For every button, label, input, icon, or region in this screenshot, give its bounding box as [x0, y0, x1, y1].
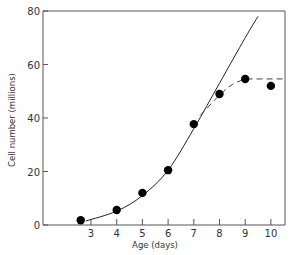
y-axis-title: Cell number (millions): [7, 73, 17, 167]
x-axis-title: Age (days): [132, 240, 178, 250]
y-tick-label: 60: [27, 60, 40, 71]
data-point: [113, 206, 121, 214]
x-tick-label: 9: [242, 228, 248, 239]
x-ticks: 345678910: [88, 219, 277, 239]
x-tick-label: 4: [114, 228, 120, 239]
plot-frame: [43, 11, 285, 225]
data-point: [215, 90, 223, 98]
y-tick-label: 20: [27, 167, 40, 178]
y-ticks: 020406080: [27, 6, 48, 231]
exponential-fit-line: [86, 16, 258, 221]
chart: 020406080 345678910 Age (days) Cell numb…: [0, 0, 297, 255]
data-point: [164, 166, 172, 174]
data-points: [77, 75, 276, 225]
y-tick-label: 40: [27, 113, 40, 124]
x-tick-label: 3: [88, 228, 94, 239]
x-tick-label: 6: [165, 228, 171, 239]
y-tick-label: 0: [34, 220, 40, 231]
data-point: [138, 189, 146, 197]
data-point: [241, 75, 249, 83]
data-point: [267, 82, 275, 90]
y-tick-label: 80: [27, 6, 40, 17]
x-tick-label: 5: [139, 228, 145, 239]
data-point: [77, 216, 85, 224]
x-tick-label: 10: [265, 228, 278, 239]
x-tick-label: 8: [216, 228, 222, 239]
x-tick-label: 7: [191, 228, 197, 239]
data-point: [190, 120, 198, 128]
